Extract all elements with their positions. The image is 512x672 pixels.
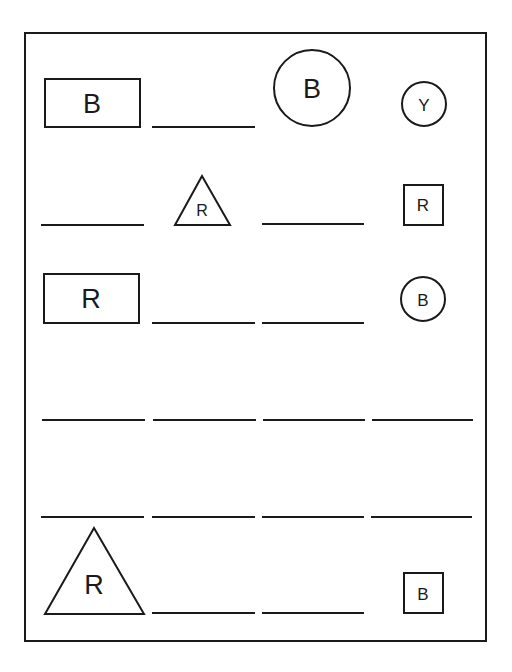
shape-letter: B (417, 291, 428, 310)
cell-r2-c2: R (175, 176, 230, 225)
cell-r1-c3: B (274, 50, 350, 126)
cell-r3-c1: R (44, 274, 139, 323)
shape-letter: R (417, 196, 429, 215)
shape-letter: R (84, 570, 104, 600)
worksheet: B B Y R R R B R (0, 0, 512, 672)
shape-letter: Y (418, 96, 429, 115)
cell-r2-c4: R (404, 185, 443, 225)
cell-r1-c4: Y (402, 82, 446, 126)
shape-letter: B (303, 74, 321, 104)
shape-letter: B (83, 89, 101, 119)
cell-r3-c4: B (401, 277, 445, 321)
cell-r6-c1: R (45, 528, 144, 614)
shape-letter: R (196, 202, 208, 219)
cell-r1-c1: B (45, 79, 140, 127)
cell-r6-c4: B (404, 573, 443, 613)
shape-letter: R (81, 284, 101, 314)
shape-letter: B (417, 585, 428, 604)
